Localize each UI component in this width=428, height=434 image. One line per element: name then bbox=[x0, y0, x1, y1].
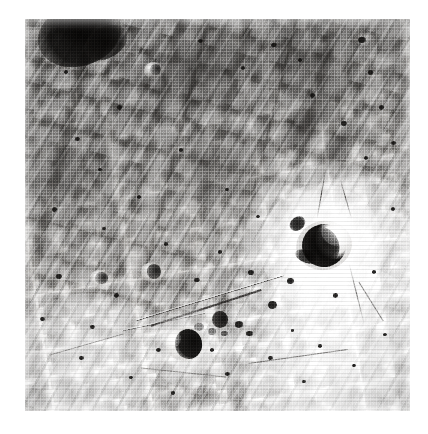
scan-striping bbox=[25, 19, 410, 411]
lunar-surface-photograph bbox=[25, 19, 410, 411]
page-canvas bbox=[0, 0, 428, 434]
